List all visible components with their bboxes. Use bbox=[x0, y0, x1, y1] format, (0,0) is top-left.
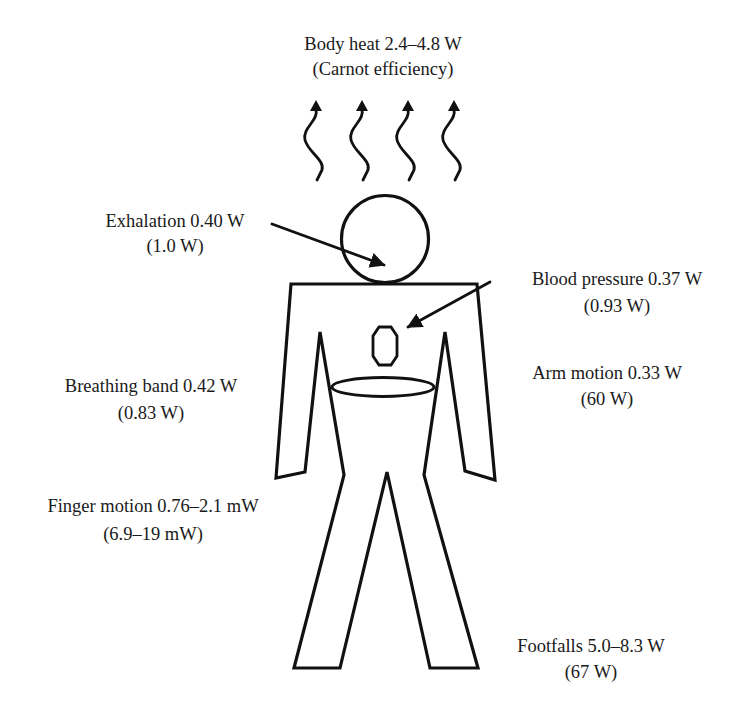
label-exhalation: Exhalation 0.40 W (1.0 W) bbox=[106, 211, 245, 257]
heart-icon bbox=[373, 327, 397, 365]
label-breathing-band: Breathing band 0.42 W (0.83 W) bbox=[65, 376, 238, 424]
arm-motion-power: Arm motion 0.33 W bbox=[532, 363, 682, 383]
head bbox=[342, 196, 429, 283]
breathing-band-total: (0.83 W) bbox=[118, 403, 184, 424]
exhalation-power: Exhalation 0.40 W bbox=[106, 211, 245, 231]
blood-pressure-total: (0.93 W) bbox=[584, 296, 650, 317]
heat-wave-arrow-icon bbox=[397, 100, 415, 180]
label-body-heat: Body heat 2.4–4.8 W (Carnot efficiency) bbox=[304, 34, 462, 80]
finger-motion-total: (6.9–19 mW) bbox=[103, 524, 203, 545]
heat-wave-arrow-icon bbox=[305, 100, 323, 180]
blood-pressure-power: Blood pressure 0.37 W bbox=[532, 269, 703, 289]
breathing-band-power: Breathing band 0.42 W bbox=[65, 376, 238, 396]
body-heat-note: (Carnot efficiency) bbox=[313, 59, 454, 80]
body-outline bbox=[276, 284, 495, 668]
finger-motion-power: Finger motion 0.76–2.1 mW bbox=[47, 496, 259, 516]
body-heat-power: Body heat 2.4–4.8 W bbox=[304, 34, 462, 54]
heat-wave-arrow-icon bbox=[351, 100, 369, 180]
label-finger-motion: Finger motion 0.76–2.1 mW (6.9–19 mW) bbox=[47, 496, 259, 545]
footfalls-total: (67 W) bbox=[565, 662, 618, 683]
exhalation-arrow-icon bbox=[272, 224, 384, 265]
breathing-band bbox=[332, 378, 434, 397]
label-blood-pressure: Blood pressure 0.37 W (0.93 W) bbox=[532, 269, 703, 317]
body-energy-diagram: Body heat 2.4–4.8 W (Carnot efficiency) … bbox=[0, 0, 753, 716]
heat-wave-arrow-icon bbox=[443, 100, 461, 180]
heat-waves bbox=[305, 100, 461, 180]
arm-motion-total: (60 W) bbox=[581, 389, 634, 410]
label-arm-motion: Arm motion 0.33 W (60 W) bbox=[532, 363, 682, 410]
label-footfalls: Footfalls 5.0–8.3 W (67 W) bbox=[517, 636, 665, 683]
footfalls-power: Footfalls 5.0–8.3 W bbox=[517, 636, 665, 656]
exhalation-total: (1.0 W) bbox=[146, 236, 203, 257]
